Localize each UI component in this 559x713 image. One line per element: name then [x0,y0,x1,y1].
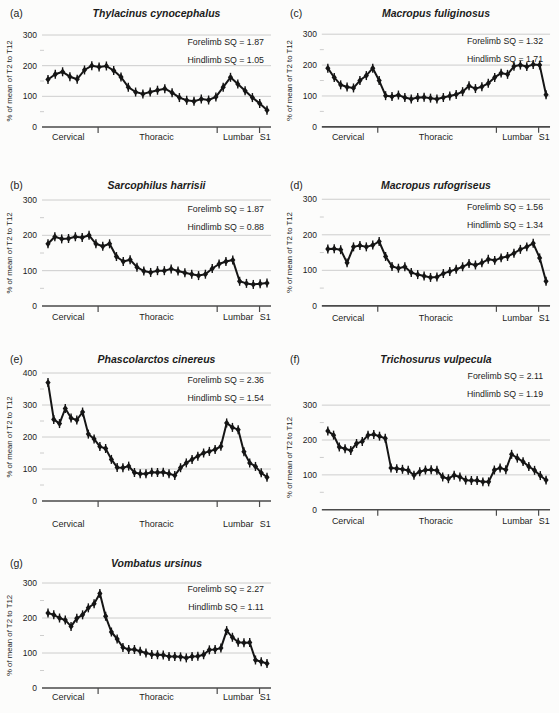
data-point-marker [409,96,414,103]
y-tick-label-100: 100 [23,266,37,276]
data-point-marker [155,651,160,658]
y-tick-label-100: 100 [303,470,317,480]
data-point-marker [251,281,256,288]
data-point-marker [66,235,71,242]
data-point-marker [460,263,465,270]
panel-letter: (b) [10,180,23,191]
figure: 0100200300CervicalThoracicLumbarS1(a)Thy… [0,0,559,713]
data-point-marker [388,465,393,472]
data-point-marker [120,464,125,471]
data-point-marker [499,255,504,262]
panel-letter: (g) [10,557,23,569]
chart-b: 0100200300CervicalThoracicLumbarS1(b)Sar… [0,180,280,358]
data-point-marker [394,465,399,472]
panel-title: Macropus fuliginosus [382,8,490,19]
data-point-marker [104,63,109,70]
x-region-label-lumbar: Lumbar [223,132,254,142]
data-point-marker [463,477,468,484]
data-point-marker [148,89,153,96]
y-tick-label-300: 300 [303,400,317,410]
data-point-marker [138,470,143,477]
data-point-marker [264,280,269,287]
data-point-marker [141,268,146,275]
data-point-marker [184,97,189,104]
panel-letter: (f) [290,354,300,365]
data-point-marker [45,379,50,386]
data-point-marker [446,475,451,482]
data-point-marker [195,653,200,660]
y-tick-label-0: 0 [312,301,317,311]
data-point-marker [342,445,347,452]
x-region-label-cervical: Cervical [332,313,364,323]
x-region-label-lumbar: Lumbar [502,516,532,526]
data-point-marker [155,469,160,476]
x-region-label-s1: S1 [539,516,550,526]
x-region-label-s1: S1 [260,312,271,322]
data-point-marker [454,266,459,273]
data-point-marker [236,426,241,433]
data-point-marker [195,453,200,460]
y-tick-label-400: 400 [23,368,37,378]
data-point-marker [97,63,102,70]
data-point-marker [161,469,166,476]
data-point-marker [244,280,249,287]
data-point-marker [143,470,148,477]
y-tick-label-100: 100 [23,91,37,101]
y-axis-label: % of mean of T2 to T12 [285,212,294,293]
data-point-marker [172,653,177,660]
x-region-label-s1: S1 [260,692,271,702]
hindlimb-sq-annotation: Hindlimb SQ = 1.05 [187,55,264,65]
data-point-marker [434,96,439,103]
chart-a: 0100200300CervicalThoracicLumbarS1(a)Thy… [0,0,280,178]
chart-g: 0100200300CervicalThoracicLumbarS1(g)Vom… [0,535,280,713]
x-region-label-cervical: Cervical [52,312,85,322]
data-point-marker [441,94,446,101]
data-point-marker [206,97,211,104]
data-point-marker [264,660,269,667]
y-tick-label-200: 200 [303,60,317,70]
y-tick-label-300: 300 [23,578,37,588]
data-point-marker [89,62,94,69]
data-point-marker [155,87,160,94]
y-tick-label-300: 300 [303,194,317,204]
panel-d: 0100200300CervicalThoracicLumbarS1(d)Mac… [280,180,559,358]
data-point-marker [454,91,459,98]
data-point-marker [402,94,407,101]
y-axis-label: % of mean of T2 to T12 [285,40,294,121]
data-point-marker [325,246,330,253]
data-point-marker [422,273,427,280]
data-point-marker [189,653,194,660]
data-point-marker [143,650,148,657]
data-point-marker [178,653,183,660]
forelimb-sq-annotation: Forelimb SQ = 2.11 [468,371,544,381]
data-point-marker [357,242,362,249]
x-region-label-lumbar: Lumbar [223,519,254,529]
data-point-marker [370,242,375,249]
x-region-label-s1: S1 [539,132,550,142]
data-point-marker [417,468,422,475]
y-tick-label-100: 100 [23,464,37,474]
data-point-marker [479,259,484,266]
data-point-marker [524,243,529,250]
panel-letter: (a) [10,7,23,19]
data-point-marker [149,469,154,476]
data-point-marker [344,84,349,91]
x-region-label-thoracic: Thoracic [419,132,454,142]
data-point-marker [57,615,62,622]
panel-a: 0100200300CervicalThoracicLumbarS1(a)Thy… [0,0,280,178]
data-point-marker [207,448,212,455]
data-point-marker [184,655,189,662]
y-axis-label: % of mean of T2 to T12 [5,595,14,676]
data-point-marker [162,85,167,92]
x-region-label-lumbar: Lumbar [223,312,254,322]
data-point-marker [400,466,405,473]
data-point-marker [518,246,523,253]
data-point-marker [258,280,263,287]
data-point-marker [441,270,446,277]
y-tick-label-0: 0 [312,505,317,515]
data-point-marker [169,266,174,273]
forelimb-sq-annotation: Forelimb SQ = 2.27 [187,584,264,594]
data-point-marker [469,477,474,484]
x-region-label-thoracic: Thoracic [139,312,174,322]
data-point-marker [447,268,452,275]
